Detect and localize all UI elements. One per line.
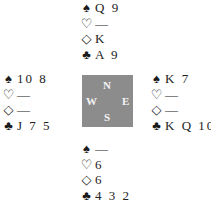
west-spades: 10 8: [17, 71, 48, 86]
diamond-icon: ◇: [79, 172, 94, 187]
south-diamonds: 6: [95, 172, 104, 187]
east-diamonds: —: [165, 102, 180, 117]
compass-box: N W E S: [82, 75, 133, 127]
east-spades-row: ♠K 7: [149, 71, 190, 86]
north-hearts: —: [95, 16, 110, 31]
west-hearts: —: [17, 87, 32, 102]
club-icon: ♣: [79, 188, 94, 203]
west-diamonds: —: [17, 102, 32, 117]
west-hearts-row: ♡—: [1, 87, 32, 102]
east-spades: K 7: [165, 71, 190, 86]
spade-icon: ♠: [149, 71, 164, 86]
spade-icon: ♠: [1, 71, 16, 86]
east-diamonds-row: ◇—: [149, 102, 180, 117]
south-hearts-row: ♡6: [79, 157, 104, 172]
south-diamonds-row: ◇6: [79, 172, 104, 187]
heart-icon: ♡: [79, 157, 94, 172]
heart-icon: ♡: [1, 87, 16, 102]
east-hearts-row: ♡—: [149, 87, 180, 102]
west-clubs-row: ♣J 7 5: [1, 118, 52, 133]
heart-icon: ♡: [149, 87, 164, 102]
diamond-icon: ◇: [79, 31, 94, 46]
club-icon: ♣: [79, 47, 94, 62]
south-hearts: 6: [95, 157, 104, 172]
west-diamonds-row: ◇—: [1, 102, 32, 117]
south-spades: —: [95, 141, 110, 156]
compass-west: W: [86, 96, 97, 107]
south-clubs-row: ♣4 3 2: [79, 188, 131, 203]
north-spades: Q 9: [95, 0, 120, 15]
compass-south: S: [104, 112, 110, 123]
north-diamonds-row: ◇K: [79, 31, 106, 46]
spade-icon: ♠: [79, 141, 94, 156]
club-icon: ♣: [149, 118, 164, 133]
west-spades-row: ♠10 8: [1, 71, 48, 86]
south-spades-row: ♠—: [79, 141, 110, 156]
heart-icon: ♡: [79, 16, 94, 31]
west-clubs: J 7 5: [17, 118, 52, 133]
diamond-icon: ◇: [149, 102, 164, 117]
north-clubs-row: ♣A 9: [79, 47, 119, 62]
north-diamonds: K: [95, 31, 106, 46]
club-icon: ♣: [1, 118, 16, 133]
east-clubs-row: ♣K Q 10: [149, 118, 211, 133]
diamond-icon: ◇: [1, 102, 16, 117]
spade-icon: ♠: [79, 0, 94, 15]
compass-north: N: [103, 80, 111, 91]
south-clubs: 4 3 2: [95, 188, 131, 203]
north-spades-row: ♠Q 9: [79, 0, 120, 15]
east-hearts: —: [165, 87, 180, 102]
north-hearts-row: ♡—: [79, 16, 110, 31]
east-clubs: K Q 10: [165, 118, 211, 133]
compass-east: E: [122, 96, 129, 107]
north-clubs: A 9: [95, 47, 119, 62]
